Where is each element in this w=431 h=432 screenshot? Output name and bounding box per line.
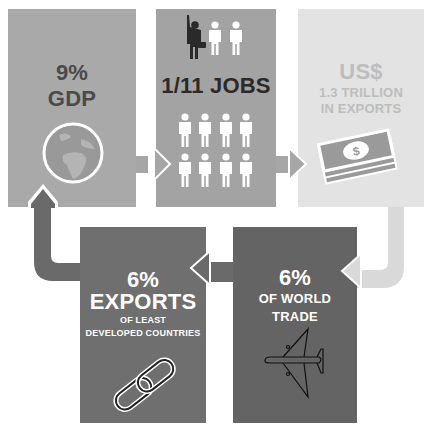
chain-link-icon (108, 355, 178, 415)
ldc-line2: OF LEAST (80, 315, 206, 325)
gdp-percent: 9% (8, 60, 136, 86)
money-stack-icon: $ (314, 125, 404, 183)
exports-label: IN EXPORTS (298, 101, 424, 116)
step-gdp: 9% GDP (8, 9, 136, 207)
step-jobs: 1/11 JOBS (156, 9, 276, 207)
currency-label: US$ (298, 59, 424, 85)
arrow-head-right (289, 148, 311, 180)
step-ldc-exports: 6% EXPORTS OF LEAST DEVELOPED COUNTRIES (80, 227, 206, 423)
people-icon (156, 9, 276, 207)
world-trade-line2: TRADE (233, 309, 357, 324)
airplane-icon (261, 327, 331, 401)
ldc-exports-label: EXPORTS (80, 289, 206, 315)
step-exports: US$ 1.3 TRILLION IN EXPORTS $ (298, 9, 424, 207)
gdp-label: GDP (8, 86, 136, 112)
world-trade-line1: OF WORLD (233, 291, 357, 306)
jobs-label: 1/11 JOBS (156, 73, 276, 99)
globe-icon (41, 121, 105, 185)
businessman-icon (187, 15, 206, 59)
world-trade-percent: 6% (233, 265, 357, 291)
arrow-head-up (26, 182, 60, 208)
ldc-line3: DEVELOPED COUNTRIES (80, 328, 206, 338)
exports-amount: 1.3 TRILLION (298, 85, 424, 100)
step-world-trade: 6% OF WORLD TRADE (233, 227, 357, 423)
